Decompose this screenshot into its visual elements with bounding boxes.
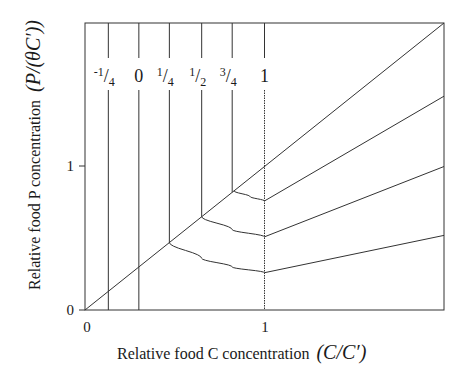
vertical-line-labels: -1/401/41/23/41 <box>94 65 269 89</box>
x-axis-label-math: (C/C′) <box>316 341 366 364</box>
isocline-curve <box>234 96 444 201</box>
y-tick-label-1: 1 <box>67 158 75 174</box>
vertical-line-label: 1 <box>260 66 269 86</box>
axis-ticks <box>79 166 85 310</box>
vertical-line-label: 1/4 <box>157 65 174 89</box>
y-axis-label-math: (P/(θC′)) <box>22 20 45 92</box>
vertical-line-label: 3/4 <box>220 65 237 89</box>
x-tick-label-1: 1 <box>261 319 269 335</box>
y-axis-label: Relative food P concentration (P/(θC′)) <box>22 20 45 290</box>
isocline-curve <box>169 235 444 272</box>
chart: -1/401/41/23/41 1 0 0 1 Relative food C … <box>0 0 467 369</box>
x-axis-label: Relative food C concentration (C/C′) <box>117 341 367 364</box>
x-axis-label-text: Relative food C concentration <box>117 345 309 362</box>
vertical-line-label: -1/4 <box>94 65 115 89</box>
vertical-line-label: 1/2 <box>189 65 206 89</box>
vertical-line-label: 0 <box>134 66 143 86</box>
y-tick-label-0: 0 <box>67 302 75 318</box>
vertical-lines <box>108 23 264 310</box>
y-axis-label-text: Relative food P concentration <box>26 100 43 290</box>
isocline-curves <box>169 96 444 273</box>
isocline-curve <box>202 167 444 237</box>
x-tick-label-0: 0 <box>83 319 91 335</box>
